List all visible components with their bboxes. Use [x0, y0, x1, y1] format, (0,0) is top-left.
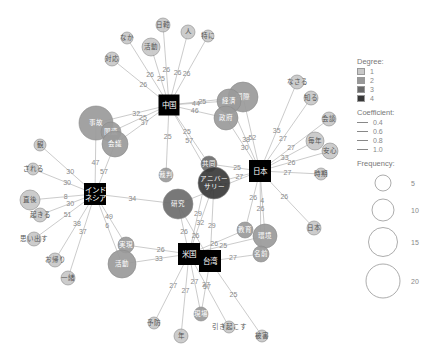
edge-coefficient-label: 27 — [191, 278, 199, 285]
word-node[interactable]: お帰り — [45, 253, 66, 267]
node-label: 起きる — [30, 211, 51, 219]
edge-coefficient-label: 27 — [182, 287, 190, 294]
degree-legend-item: 1 — [357, 67, 425, 76]
word-node[interactable]: される — [23, 163, 44, 175]
node-label: 被害 — [255, 331, 269, 340]
word-node[interactable]: 起きる — [30, 208, 51, 222]
node-label: 特に — [201, 31, 215, 40]
word-node[interactable]: 引き起こす — [212, 321, 247, 333]
frequency-circle — [372, 199, 394, 221]
word-node[interactable]: 年 — [174, 329, 188, 343]
word-node[interactable]: 会談 — [322, 112, 336, 126]
edge-coefficient-label: 27 — [287, 144, 295, 151]
node-label: 毎年 — [308, 136, 322, 145]
node-label: 安心 — [323, 146, 337, 155]
node-label: 直後 — [23, 195, 37, 204]
word-node[interactable]: 特に — [201, 30, 215, 42]
word-node[interactable]: 安心 — [322, 143, 338, 159]
edge-coefficient-label: 26 — [288, 159, 296, 166]
word-node[interactable]: 思い出す — [20, 232, 48, 246]
edge-coefficient-label: 30 — [66, 200, 74, 207]
edge-coefficient-label: 32 — [196, 219, 204, 226]
node-label: 年 — [178, 331, 185, 340]
edge-coefficient-label: 26 — [139, 81, 147, 88]
edge-coefficient-label: 6 — [105, 222, 109, 229]
coefficient-line-sample — [357, 149, 368, 151]
word-node[interactable]: 知る — [304, 91, 318, 105]
degree-label: 4 — [370, 95, 374, 102]
edge-coefficient-label: 49 — [105, 213, 113, 220]
edge-coefficient-label: 27 — [169, 282, 177, 289]
node-label: 日韓 — [156, 20, 170, 29]
edge-coefficient-label: 4 — [260, 197, 264, 204]
coefficient-legend: 0.40.60.81.0 — [357, 118, 425, 154]
edge-coefficient-label: 35 — [273, 127, 281, 134]
node-label: 思い出す — [20, 234, 48, 243]
word-node[interactable]: 研究 — [163, 189, 193, 219]
word-node[interactable]: 会議 — [102, 131, 128, 157]
word-node[interactable]: 直後 — [20, 190, 40, 210]
node-label: 名前 — [254, 249, 268, 258]
hub-label: 台湾 — [203, 256, 218, 266]
hub-label: ネシア — [85, 194, 106, 203]
edge-coefficient-label: 25 — [164, 133, 172, 140]
edge-coefficient-label: 25 — [219, 242, 227, 249]
word-node[interactable]: 活動 — [108, 250, 136, 278]
word-node[interactable]: 名前 — [253, 246, 269, 262]
node-label: 対応 — [105, 54, 119, 63]
edge-coefficient-label: 25 — [157, 75, 165, 82]
edge-coefficient-label: 27 — [229, 254, 237, 261]
edge-coefficient-label: 25 — [233, 164, 241, 171]
node-label: アニバー — [200, 175, 228, 183]
word-node[interactable]: 毎年 — [306, 132, 324, 150]
edge-coefficient-label: 26 — [174, 69, 182, 76]
word-node[interactable]: 人 — [181, 25, 195, 39]
frequency-circle — [369, 228, 398, 257]
edge-coefficient-label: 38 — [73, 220, 81, 227]
word-node[interactable]: 現場 — [194, 307, 208, 321]
word-node[interactable]: 一緒 — [61, 271, 75, 285]
edge-coefficient-label: 30 — [241, 144, 249, 151]
word-node[interactable]: 対応 — [105, 52, 119, 66]
word-node[interactable]: 政府 — [214, 106, 238, 130]
hub-node-usa[interactable]: 米国 — [178, 243, 200, 265]
edge-coefficient-label: 26 — [280, 193, 288, 200]
degree-swatch — [357, 95, 365, 102]
node-label: 予防 — [147, 318, 161, 327]
degree-swatch — [357, 68, 365, 75]
word-node[interactable]: 被害 — [255, 330, 269, 342]
coefficient-line-sample — [357, 140, 368, 141]
frequency-label: 5 — [411, 180, 415, 187]
word-node[interactable]: 時期 — [314, 168, 328, 180]
node-label: 裁判 — [159, 170, 173, 179]
degree-legend: 1234 — [357, 67, 425, 103]
edge-coefficient-label: 26 — [157, 246, 165, 253]
node-label: 観 — [37, 140, 44, 149]
word-node[interactable]: アニバーサリー — [198, 167, 230, 199]
node-label: 実現 — [119, 240, 133, 249]
word-node[interactable]: 環境 — [253, 224, 277, 248]
degree-legend-item: 3 — [357, 85, 425, 94]
word-node[interactable]: 活動 — [142, 38, 160, 56]
frequency-label: 15 — [411, 239, 419, 246]
word-node[interactable]: 日韓 — [156, 18, 170, 32]
word-node[interactable]: 観 — [34, 139, 46, 151]
coefficient-legend-item: 0.8 — [357, 136, 425, 145]
edge-coefficient-label: 26 — [180, 228, 188, 235]
word-node[interactable]: 予防 — [147, 317, 161, 329]
hub-node-china[interactable]: 中国 — [159, 95, 180, 116]
edge-coefficient-label: 27 — [202, 281, 210, 288]
edge-coefficient-label: 37 — [79, 228, 87, 235]
word-node[interactable]: 教育 — [237, 222, 253, 238]
hub-node-taiwan[interactable]: 台湾 — [199, 250, 221, 272]
word-node[interactable]: なさる — [287, 75, 308, 89]
word-node[interactable]: なか — [120, 32, 134, 44]
edge-coefficient-label: 27 — [284, 169, 292, 176]
frequency-label: 20 — [411, 278, 419, 285]
hub-node-japan[interactable]: 日本 — [249, 160, 271, 182]
hub-node-indonesia[interactable]: インドネシア — [84, 183, 106, 205]
hub-label: 米国 — [182, 249, 196, 259]
word-node[interactable]: 裁判 — [159, 168, 173, 182]
coefficient-line-sample — [357, 131, 368, 132]
word-node[interactable]: 日本 — [307, 221, 321, 235]
